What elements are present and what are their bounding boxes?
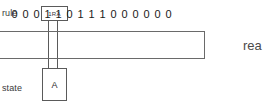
tape-cell-head: 1 [53,9,64,20]
tape-cell: 0 [9,9,20,20]
tape-cell: 1 [75,9,86,20]
tape-cell: 0 [130,9,141,20]
tape-cell: 0 [108,9,119,20]
tape-cell: 0 [119,9,130,20]
read-label: rea [243,39,262,52]
tape-cell: 0 [152,9,163,20]
tape-cell: 1 [42,9,53,20]
tape-cell: 0 [141,9,152,20]
tape-cell: 1 [86,9,97,20]
state-value: A [43,80,66,89]
state-label: state [2,84,22,93]
turing-machine-diagram: rule 1RA 000110111000000 state A rea [0,0,270,107]
tape-cell: 0 [163,9,174,20]
tape [0,31,205,59]
tape-cell: 1 [97,9,108,20]
tape-cell: 0 [20,9,31,20]
tape-cells: 000110111000000 [9,0,174,28]
tape-cell: 0 [64,9,75,20]
tape-cell: 0 [31,9,42,20]
state-box: A [42,68,67,101]
